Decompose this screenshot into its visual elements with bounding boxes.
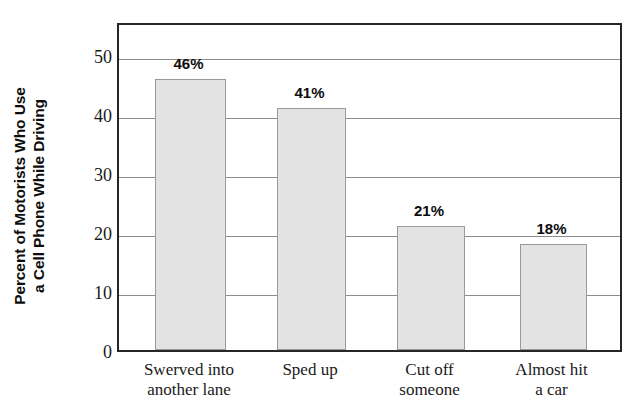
y-tick-30: 30	[72, 166, 112, 184]
x-label-sped-up: Sped up	[250, 360, 370, 380]
y-axis-title-line-1: Percent of Motorists Who Use	[10, 87, 29, 305]
x-label-line-1: Sped up	[250, 360, 370, 380]
x-label-almost-hit-a-car: Almost hit a car	[494, 360, 609, 400]
x-label-line-2: someone	[372, 380, 487, 400]
x-label-line-1: Swerved into	[128, 360, 250, 380]
y-tick-40: 40	[72, 107, 112, 125]
y-tick-10: 10	[72, 284, 112, 302]
x-label-line-1: Cut off	[372, 360, 487, 380]
y-tick-20: 20	[72, 225, 112, 243]
value-label-sped-up: 41%	[275, 85, 344, 100]
y-tick-0: 0	[72, 343, 112, 361]
y-axis-tick-labels: 50 40 30 20 10 0	[68, 0, 112, 414]
bar-almost-hit-a-car	[520, 244, 587, 350]
x-label-swerved-into-another-lane: Swerved into another lane	[128, 360, 250, 400]
bar-chart-figure: Percent of Motorists Who Use a Cell Phon…	[0, 0, 634, 414]
y-axis-title-line-2: a Cell Phone While Driving	[29, 99, 48, 293]
y-axis-title: Percent of Motorists Who Use a Cell Phon…	[0, 0, 58, 370]
x-label-line-2: another lane	[128, 380, 250, 400]
value-label-cut-off-someone: 21%	[395, 203, 463, 218]
y-tick-50: 50	[72, 48, 112, 66]
bar-swerved-into-another-lane	[155, 79, 226, 350]
plot-area	[117, 23, 622, 352]
y-axis-title-text: Percent of Motorists Who Use a Cell Phon…	[0, 31, 58, 361]
bar-sped-up	[277, 108, 346, 350]
x-label-line-1: Almost hit	[494, 360, 609, 380]
bar-cut-off-someone	[397, 226, 465, 350]
value-label-almost-hit-a-car: 18%	[518, 221, 585, 236]
x-label-cut-off-someone: Cut off someone	[372, 360, 487, 400]
x-label-line-2: a car	[494, 380, 609, 400]
value-label-swerved-into-another-lane: 46%	[153, 56, 224, 71]
